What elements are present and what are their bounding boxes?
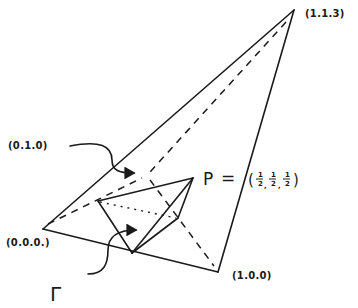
inner-edge-bottom-right: [132, 218, 178, 253]
frac3-den: 2: [285, 180, 290, 188]
inner-edge-left-p: [98, 178, 193, 201]
label-p: P: [203, 169, 213, 189]
hidden-edge-origin-y: [48, 178, 142, 224]
frac2-num: 1: [271, 171, 276, 179]
edge-origin-apex: [43, 10, 294, 229]
label-origin: (0.0.0.): [6, 237, 50, 248]
diagram-canvas: (1.1.3) (0.1.0) (0.0.0.) (1.0.0) P = ( 1…: [0, 0, 358, 308]
comma1: ,: [264, 182, 267, 190]
label-gamma: Γ: [50, 282, 62, 306]
label-x: (1.0.0): [232, 270, 272, 281]
frac3-num: 1: [285, 171, 290, 179]
edge-x-apex: [218, 10, 294, 272]
label-equals: =: [221, 168, 235, 188]
inner-hidden-edge-left-right: [100, 202, 176, 218]
frac1-num: 1: [258, 171, 263, 179]
label-y: (0.1.0): [8, 140, 48, 151]
label-apex: (1.1.3): [305, 8, 345, 19]
paren-open: (: [248, 171, 254, 189]
frac1-den: 2: [258, 180, 263, 188]
outer-tetrahedron: [43, 10, 294, 272]
inner-tetrahedron: [98, 178, 193, 253]
paren-close: ): [293, 171, 299, 189]
p-coordinates: ( 1 2 , 1 2 , 1 2 ): [248, 171, 299, 190]
arrow-from-gamma: [88, 230, 136, 274]
inner-edge-right-p: [178, 178, 193, 218]
hidden-edge-apex-y: [150, 22, 286, 172]
hidden-edge-y-x: [150, 180, 214, 266]
inner-edge-left-bottom: [98, 201, 132, 253]
comma2: ,: [278, 182, 281, 190]
frac2-den: 2: [271, 180, 276, 188]
